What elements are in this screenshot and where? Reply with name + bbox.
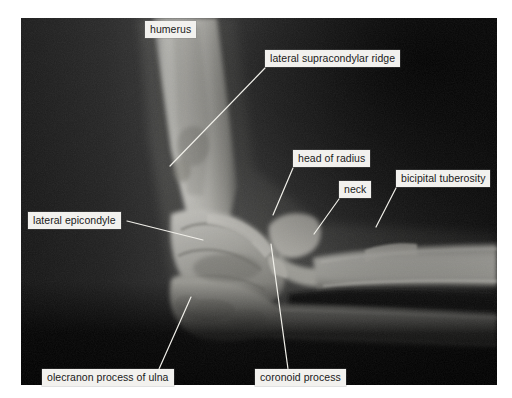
label-lateral-epicondyle: lateral epicondyle [28,212,121,229]
label-neck: neck [339,181,371,198]
label-lateral-supracondylar-ridge: lateral supracondylar ridge [265,50,400,67]
label-bicipital-tuberosity: bicipital tuberosity [396,170,490,187]
xray-photograph [21,18,497,385]
label-humerus: humerus [145,21,196,38]
label-coronoid-process: coronoid process [255,369,346,386]
label-olecranon-process-of-ulna: olecranon process of ulna [42,369,174,386]
anatomical-radiograph-figure: humerus lateral supracondylar ridge head… [0,0,512,398]
xray-image [21,18,497,385]
label-head-of-radius: head of radius [293,150,370,167]
